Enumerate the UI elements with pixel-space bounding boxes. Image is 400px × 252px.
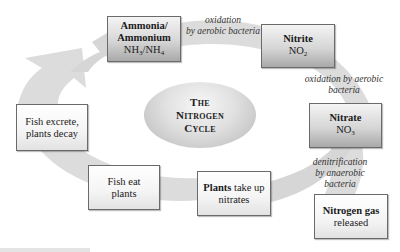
cycle-title: The Nitrogen Cycle xyxy=(144,82,256,148)
arrowhead-lower xyxy=(18,48,86,104)
node-fish-excrete-line2: plants decay xyxy=(26,128,78,140)
node-fish-eat-line1: Fish eat xyxy=(108,176,141,188)
bottom-left-strip xyxy=(0,248,90,252)
node-nitrate-formula: NO3 xyxy=(336,124,355,139)
node-nitrate-name: Nitrate xyxy=(329,112,361,124)
node-nitrite-name: Nitrite xyxy=(283,33,313,45)
title-line-3: Cycle xyxy=(184,122,216,135)
node-ammonia-line2: Ammonium xyxy=(117,32,171,44)
nitrogen-cycle-diagram: The Nitrogen Cycle Ammonia/ Ammonium NH3… xyxy=(0,0,400,252)
node-nitrite-formula: NO2 xyxy=(289,45,308,60)
edge-label-nitrite-to-nitrate: oxidation by aerobic bacteria xyxy=(288,74,400,96)
node-nitrite: Nitrite NO2 xyxy=(261,24,335,68)
edge-label-ammonia-to-nitrite: oxidation by aerobic bacteria xyxy=(183,15,263,37)
node-nitrogen-gas: Nitrogen gas released xyxy=(314,194,388,239)
node-ammonia-formula: NH3/NH4 xyxy=(124,44,164,59)
node-fish-eat-line2: plants xyxy=(111,188,136,200)
node-plants-line1: Plants take up xyxy=(203,182,264,194)
title-line-1: The xyxy=(190,96,210,109)
node-nitrogen-gas-name: Nitrogen gas xyxy=(323,205,380,217)
node-plants: Plants take up nitrates xyxy=(197,171,271,216)
node-fish-excrete-line1: Fish excrete, xyxy=(25,116,79,128)
node-ammonia-line1: Ammonia/ xyxy=(120,20,167,32)
node-fish-excrete: Fish excrete, plants decay xyxy=(16,104,88,151)
node-plants-line2: nitrates xyxy=(219,194,250,206)
edge-label-nitrate-to-nitrogen: denitrification by anaerobic bacteria xyxy=(310,157,370,190)
node-nitrate: Nitrate NO3 xyxy=(309,103,382,148)
node-ammonia: Ammonia/ Ammonium NH3/NH4 xyxy=(107,16,181,62)
node-fish-eat: Fish eat plants xyxy=(88,165,160,210)
title-line-2: Nitrogen xyxy=(176,109,224,122)
node-nitrogen-gas-text: released xyxy=(334,217,368,229)
